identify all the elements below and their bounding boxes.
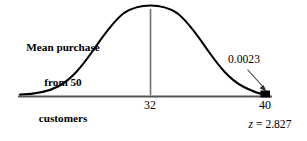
curve-label-line-2: from 50 (16, 77, 110, 89)
z-score-label: z = 2.827 (238, 119, 302, 131)
curve-label-line-3: customers (16, 113, 110, 125)
curve-description-label: Mean purchase from 50 customers ($) (16, 18, 110, 141)
axis-tick-label-boundary: 40 (249, 99, 281, 112)
axis-tick-label-mean: 32 (134, 99, 166, 112)
curve-label-line-1: Mean purchase (16, 42, 110, 54)
normal-distribution-figure: Mean purchase from 50 customers ($) 0.00… (0, 0, 307, 141)
z-score-value: = 2.827 (253, 118, 291, 131)
tail-area-label: 0.0023 (219, 54, 269, 66)
boundary-marker-square (261, 91, 271, 98)
